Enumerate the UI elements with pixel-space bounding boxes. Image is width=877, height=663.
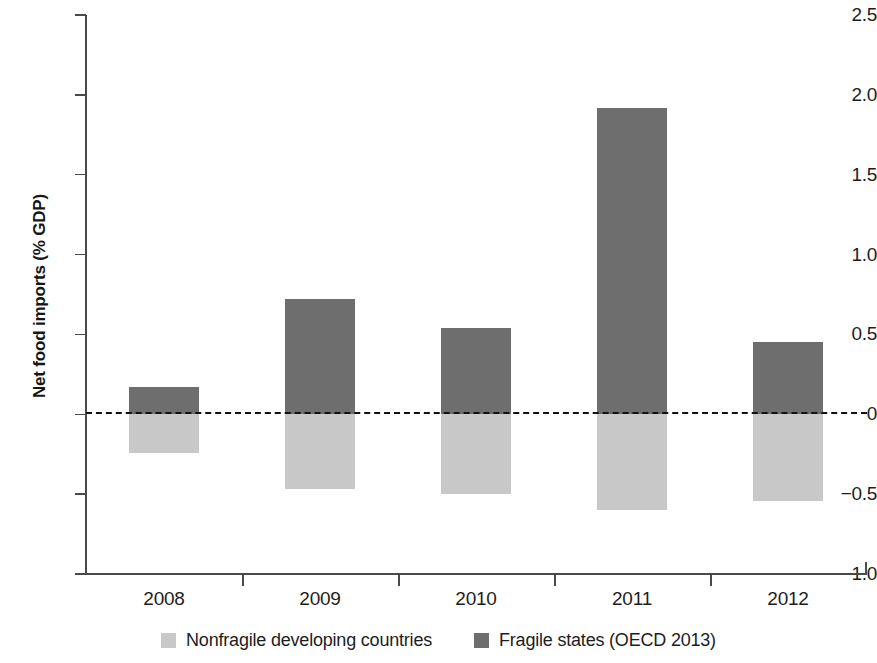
bar-chart-figure: Net food imports (% GDP) 2.52.01.51.00.5… <box>0 0 877 663</box>
bar-segment <box>441 414 511 494</box>
x-divider-tick <box>398 574 400 586</box>
x-divider-tick <box>242 574 244 586</box>
bar-segment <box>753 342 823 414</box>
bar-segment <box>441 328 511 414</box>
bar-segment <box>597 414 667 510</box>
bar-segment <box>129 387 199 414</box>
legend-label: Fragile states (OECD 2013) <box>499 630 716 651</box>
x-tick-label: 2009 <box>242 588 398 610</box>
x-divider-tick <box>554 574 556 586</box>
x-tick-label: 2010 <box>398 588 554 610</box>
bar-segment <box>285 414 355 489</box>
x-tick-label: 2012 <box>710 588 866 610</box>
bar-segment <box>129 414 199 453</box>
x-tick-label: 2008 <box>86 588 242 610</box>
legend-swatch-icon <box>161 633 176 648</box>
legend-item[interactable]: Fragile states (OECD 2013) <box>474 630 716 651</box>
bar-segment <box>285 299 355 414</box>
legend-item[interactable]: Nonfragile developing countries <box>161 630 432 651</box>
y-axis-title: Net food imports (% GDP) <box>30 146 50 446</box>
x-tick-label: 2011 <box>554 588 710 610</box>
bar-segment <box>597 108 667 415</box>
zero-reference-line <box>86 412 867 414</box>
bars-container <box>86 15 866 574</box>
legend-label: Nonfragile developing countries <box>186 630 432 651</box>
x-divider-tick <box>710 574 712 586</box>
chart-legend: Nonfragile developing countriesFragile s… <box>0 630 877 651</box>
x-axis-end-tick <box>865 562 867 574</box>
legend-swatch-icon <box>474 633 489 648</box>
bar-segment <box>753 414 823 501</box>
